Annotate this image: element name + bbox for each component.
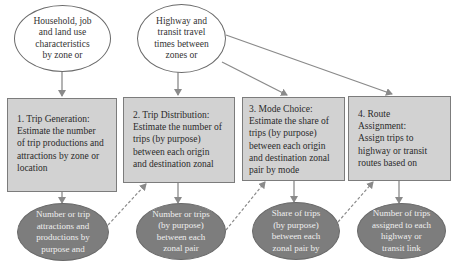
output-text: Number or trip attractions and productio…	[36, 209, 90, 255]
output-oval-mode-choice: Share of trips (by purpose) between each…	[252, 202, 340, 260]
step-text: 1. Trip Generation: Estimate the number …	[17, 114, 104, 173]
arrow-input2-to-step3	[222, 62, 287, 95]
step-box-mode-choice: 3. Mode Choice: Estimate the share of tr…	[242, 97, 345, 181]
output-text: Share of trips (by purpose) between each…	[272, 208, 321, 254]
step-box-trip-generation: 1. Trip Generation: Estimate the number …	[7, 98, 117, 192]
arrow-input2-to-step4	[226, 35, 392, 94]
step-text: 2. Trip Distribution: Estimate the numbe…	[133, 110, 222, 169]
step-text: 4. Route Assignment: Assign trips to hig…	[358, 109, 427, 168]
output-oval-route-assignment: Number of trips assigned to each highway…	[357, 203, 446, 259]
step-box-route-assignment: 4. Route Assignment: Assign trips to hig…	[348, 96, 451, 181]
output-text: Number of trips assigned to each highway…	[372, 208, 431, 254]
input-oval-text: Highway and transit travel times between…	[154, 16, 209, 62]
input-oval-text: Household, job and land use characterist…	[33, 16, 91, 62]
output-text: Number or trips (by purpose) between eac…	[152, 209, 210, 255]
output-oval-trip-generation: Number or trip attractions and productio…	[17, 203, 109, 261]
output-oval-trip-distribution: Number or trips (by purpose) between eac…	[136, 203, 226, 260]
input-oval-land-use: Household, job and land use characterist…	[14, 5, 111, 72]
step-box-trip-distribution: 2. Trip Distribution: Estimate the numbe…	[123, 97, 235, 183]
input-oval-travel-times: Highway and transit travel times between…	[137, 4, 226, 73]
step-text: 3. Mode Choice: Estimate the share of tr…	[249, 104, 330, 175]
